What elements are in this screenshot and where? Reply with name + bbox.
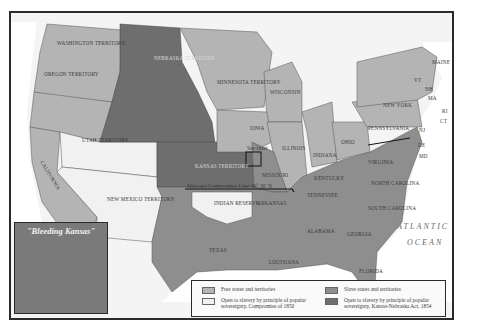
label-de: DE: [418, 142, 425, 148]
label-missouri-compromise-line: Missouri Compromise Line 36° 30' N: [187, 183, 272, 189]
legend-label-slave: Slave states and territories: [344, 286, 401, 292]
label-minnesota: MINNESOTA TERRITORY: [217, 79, 281, 85]
legend-item-free: Free states and territories: [202, 286, 317, 294]
label-utah: UTAH TERRITORY: [82, 137, 129, 143]
label-atlantic: ATLANTIC: [396, 222, 449, 231]
label-ocean: OCEAN: [407, 238, 443, 247]
label-iowa: IOWA: [250, 125, 264, 131]
label-texas: TEXAS: [209, 247, 227, 253]
label-washington: WASHINGTON TERRITORY: [57, 40, 125, 46]
label-indiana: INDIANA: [313, 152, 337, 158]
label-georgia: GEORGIA: [347, 231, 372, 237]
swatch-free: [202, 287, 215, 294]
swatch-slave: [325, 287, 338, 294]
label-ma: MA: [428, 95, 437, 101]
label-missouri: MISSOURI: [262, 172, 288, 178]
inset-title: "Bleeding Kansas": [15, 226, 107, 236]
map-legend: Free states and territories Open to slav…: [191, 280, 446, 317]
bleeding-kansas-inset: "Bleeding Kansas": [14, 222, 108, 314]
label-kentucky: KENTUCKY: [314, 175, 344, 181]
label-new-york: NEW YORK: [383, 102, 412, 108]
label-pennsylvania: PENNSYLVANIA: [368, 125, 409, 131]
legend-label-open-1854: Open to slavery by principle of popular …: [344, 297, 445, 309]
label-ohio: OHIO: [341, 139, 355, 145]
swatch-open-1854: [325, 298, 338, 305]
label-oregon: OREGON TERRITORY: [44, 71, 99, 77]
label-nebraska: NEBRASKA TERRITORY: [154, 55, 215, 61]
swatch-open-1850: [202, 298, 215, 305]
label-louisiana: LOUISIANA: [269, 259, 299, 265]
legend-label-open-1850: Open to slavery by principle of popular …: [221, 297, 322, 309]
washington-territory: [34, 24, 122, 102]
label-arkansas: ARKANSAS: [257, 200, 287, 206]
label-virginia: VIRGINIA: [368, 159, 393, 165]
label-kansas: KANSAS TERRITORY: [195, 163, 249, 169]
label-south-carolina: SOUTH CAROLINA: [368, 205, 416, 211]
label-new-mexico: NEW MEXICO TERRITORY: [107, 196, 174, 202]
label-maine: MAINE: [432, 59, 450, 65]
label-alabama: ALABAMA: [307, 228, 335, 234]
label-florida: FLORIDA: [359, 268, 383, 274]
label-ri: RI: [442, 108, 448, 114]
label-md: MD: [419, 153, 428, 159]
label-see-inset: See Inset: [247, 145, 268, 151]
label-wisconsin: WISCONSIN: [270, 89, 301, 95]
label-north-carolina: NORTH CAROLINA: [371, 180, 420, 186]
label-vt: VT: [414, 77, 422, 83]
label-illinois: ILLINOIS: [282, 145, 306, 151]
legend-item-slave: Slave states and territories: [325, 286, 445, 294]
label-tennessee: TENNESSEE: [307, 192, 338, 198]
label-nj: NJ: [419, 127, 425, 133]
label-nh: NH: [425, 86, 433, 92]
legend-label-free: Free states and territories: [221, 286, 275, 292]
label-ct: CT: [440, 118, 448, 124]
label-indian-reserve: INDIAN RESERVE: [214, 200, 259, 206]
legend-item-open-1854: Open to slavery by principle of popular …: [325, 297, 445, 309]
legend-item-open-1850: Open to slavery by principle of popular …: [202, 297, 322, 309]
